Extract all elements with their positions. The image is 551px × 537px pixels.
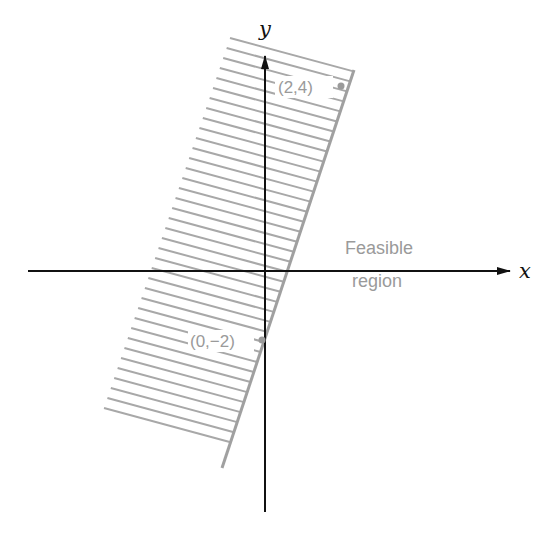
region-label-feasible: Feasible bbox=[345, 238, 413, 258]
point-marker-2-4 bbox=[338, 83, 345, 90]
region-label-region: region bbox=[352, 271, 402, 291]
point-label-2-4: (2,4) bbox=[278, 78, 313, 97]
feasible-region-hatching bbox=[104, 38, 354, 442]
x-axis-label: x bbox=[519, 259, 531, 283]
point-marker-0-neg2 bbox=[259, 337, 266, 344]
point-label-0-neg2: (0,−2) bbox=[190, 332, 235, 351]
feasible-region-diagram: x y (2,4) (0,−2) Feasible region bbox=[0, 0, 551, 537]
hatch-line bbox=[104, 408, 231, 442]
y-axis-label: y bbox=[258, 17, 272, 41]
